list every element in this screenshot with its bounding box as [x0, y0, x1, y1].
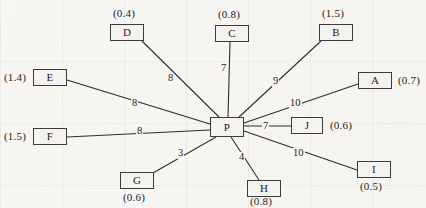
node-box-j[interactable]: J [291, 117, 323, 134]
node-capacity-h: (0.8) [250, 196, 272, 207]
edge-weight-p-j: 7 [262, 121, 269, 132]
node-box-f[interactable]: F [33, 128, 67, 145]
node-label-g: G [133, 175, 141, 186]
node-capacity-d: (0.4) [113, 8, 135, 19]
edge-p-c [228, 42, 230, 117]
node-label-h: H [260, 183, 268, 194]
edge-weight-p-f: 8 [136, 126, 143, 137]
node-label-a: A [371, 75, 379, 86]
edge-weight-p-d: 8 [167, 73, 174, 84]
node-box-a[interactable]: A [358, 72, 392, 89]
node-capacity-g: (0.6) [123, 192, 145, 203]
edge-weight-p-c: 7 [220, 63, 227, 74]
edge-p-g [153, 137, 216, 173]
node-label-j: J [305, 120, 310, 131]
node-box-c[interactable]: C [215, 25, 249, 42]
node-label-f: F [47, 131, 53, 142]
node-box-i[interactable]: I [357, 161, 391, 178]
node-label-b: B [332, 27, 340, 38]
node-box-d[interactable]: D [110, 24, 144, 41]
node-box-e[interactable]: E [33, 69, 67, 86]
node-capacity-i: (0.5) [360, 181, 382, 192]
node-capacity-c: (0.8) [218, 9, 240, 20]
edge-p-d [142, 41, 219, 117]
edge-weight-p-a: 10 [289, 98, 302, 109]
node-box-p[interactable]: P [210, 117, 244, 137]
node-box-g[interactable]: G [120, 172, 154, 189]
node-label-p: P [224, 122, 230, 133]
edge-weight-p-h: 4 [238, 152, 245, 163]
edge-weight-p-i: 10 [292, 148, 305, 159]
node-capacity-j: (0.6) [330, 120, 352, 131]
edge-weight-p-b: 9 [272, 76, 279, 87]
node-label-c: C [228, 28, 236, 39]
node-capacity-f: (1.5) [4, 131, 26, 142]
edge-weight-p-g: 3 [177, 148, 184, 159]
node-capacity-e: (1.4) [4, 72, 26, 83]
node-label-e: E [46, 72, 53, 83]
edge-weight-p-e: 8 [131, 98, 138, 109]
node-label-d: D [123, 27, 131, 38]
node-box-b[interactable]: B [319, 24, 353, 41]
node-capacity-a: (0.7) [398, 75, 420, 86]
edge-p-b [238, 41, 321, 118]
node-label-i: I [372, 164, 376, 175]
network-diagram: A(0.7)B(1.5)C(0.8)D(0.4)E(1.4)F(1.5)G(0.… [0, 0, 426, 208]
node-capacity-b: (1.5) [322, 8, 344, 19]
